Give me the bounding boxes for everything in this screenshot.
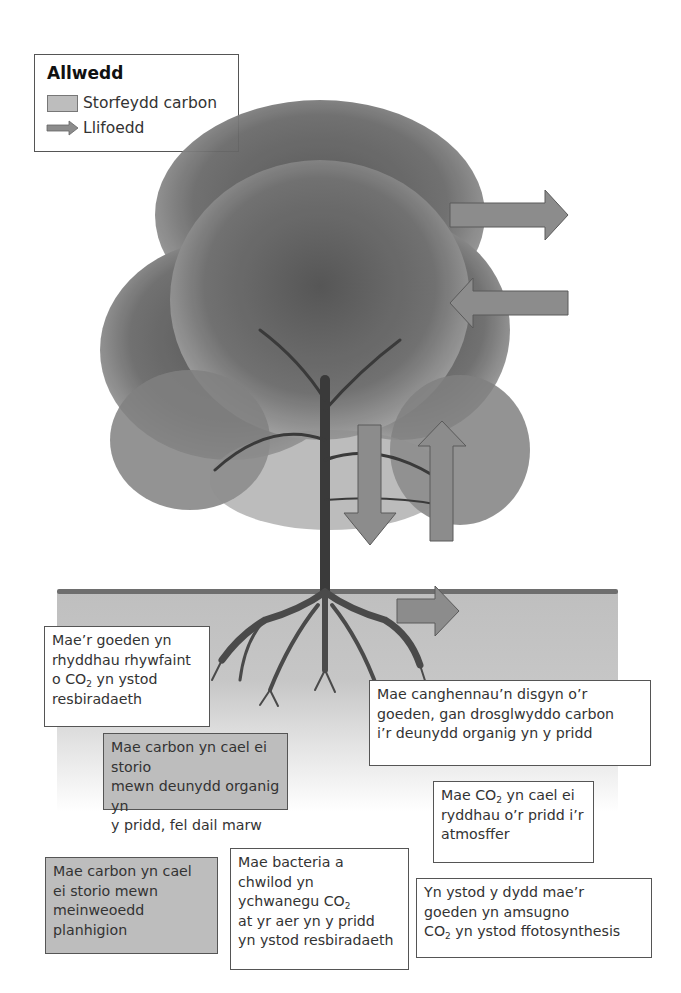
flow-arrow-up	[418, 421, 468, 543]
label-branches-fall: Mae canghennau’n disgyn o’r goeden, gan …	[369, 680, 651, 766]
label-tree-respiration: Mae’r goeden yn rhyddhau rhywfaint o CO2…	[44, 626, 210, 727]
store-organic-matter: Mae carbon yn cael ei storio mewn deunyd…	[103, 733, 288, 810]
flow-arrow-down	[350, 425, 396, 547]
label-bacteria-respiration: Mae bacteria a chwilod yn ychwanegu CO2 …	[230, 848, 409, 970]
flow-arrow-left-canopy	[450, 278, 570, 330]
label-soil-co2-release: Mae CO2 yn cael ei ryddhau o’r pridd i’r…	[433, 781, 594, 863]
flow-arrow-right-soil	[397, 586, 461, 638]
label-photosynthesis: Yn ystod y dydd mae’r goeden yn amsugno …	[416, 878, 652, 958]
flow-arrow-right-canopy	[450, 190, 570, 242]
store-plant-tissue: Mae carbon yn cael ei storio mewn meinwe…	[45, 857, 218, 954]
